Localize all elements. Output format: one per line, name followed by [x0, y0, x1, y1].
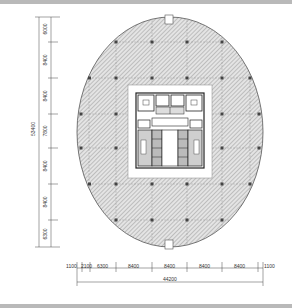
hdim-seg-7: 8400	[234, 263, 245, 269]
hdim-seg-5: 8400	[164, 263, 175, 269]
hdim-seg-3: 6300	[97, 263, 108, 269]
elevator-lobby	[162, 130, 178, 166]
floor-plan-drawing	[0, 0, 292, 308]
vdim-seg-2: 8400	[42, 50, 48, 70]
hdim-seg-1: 1100	[66, 263, 77, 269]
bottom-notch	[165, 240, 173, 249]
hdim-seg-6: 8400	[199, 263, 210, 269]
hdim-seg-8: 1100	[264, 263, 275, 269]
vdim-seg-5: 8400	[42, 156, 48, 176]
top-notch	[165, 15, 173, 24]
hdim-seg-2: 2100	[81, 263, 92, 269]
hdim-seg-4: 8400	[128, 263, 139, 269]
vdim-seg-6: 8400	[42, 192, 48, 212]
vdim-seg-1: 6000	[42, 19, 48, 39]
stair-shaft-right	[186, 95, 202, 111]
vdim-total: 53400	[30, 119, 36, 139]
building-core	[128, 85, 212, 178]
hdim-total: 44200	[163, 276, 177, 282]
vdim-seg-3: 8400	[42, 86, 48, 106]
vdim-seg-7: 6300	[42, 224, 48, 244]
vdim-seg-4: 7800	[42, 121, 48, 141]
stair-shaft-left	[138, 95, 154, 111]
